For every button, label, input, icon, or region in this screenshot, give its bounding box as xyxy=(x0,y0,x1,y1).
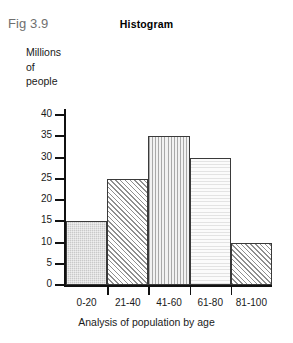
y-axis-tick-label: 25 xyxy=(41,172,52,184)
histogram-bar xyxy=(231,243,272,286)
y-axis-tick-mark xyxy=(55,178,64,180)
y-axis-tick-mark xyxy=(55,284,64,286)
y-axis-label-line-1: Millions xyxy=(26,45,61,60)
x-axis-label: Analysis of population by age xyxy=(0,316,293,328)
y-axis-label: Millions of people xyxy=(26,45,61,89)
y-axis-tick-mark xyxy=(55,135,64,137)
x-axis-line xyxy=(64,285,272,287)
x-axis-category-label: 0-20 xyxy=(66,297,107,309)
histogram-plot-area: 0510152025303540 0-2021-4041-6061-8081-1… xyxy=(66,115,272,285)
x-axis-category-label: 61-80 xyxy=(190,297,231,309)
y-axis-tick-mark xyxy=(55,199,64,201)
y-axis-tick-mark xyxy=(55,114,64,116)
x-axis-tick-mark xyxy=(190,287,192,295)
y-axis-tick-mark xyxy=(55,220,64,222)
y-axis-label-line-3: people xyxy=(26,74,61,89)
y-axis-label-line-2: of xyxy=(26,60,61,75)
x-axis-category-label: 81-100 xyxy=(231,297,272,309)
y-axis-tick-label: 30 xyxy=(41,151,52,163)
histogram-bar xyxy=(107,179,148,285)
x-axis-category-label: 21-40 xyxy=(107,297,148,309)
x-axis-tick-mark xyxy=(231,287,233,295)
y-axis-tick-label: 10 xyxy=(41,236,52,248)
histogram-bar xyxy=(66,221,107,285)
y-axis-tick-label: 40 xyxy=(41,108,52,120)
y-axis-tick-mark xyxy=(55,157,64,159)
y-axis-tick-label: 35 xyxy=(41,129,52,141)
histogram-bar xyxy=(190,158,231,286)
y-axis-tick-mark xyxy=(55,242,64,244)
x-axis-category-label: 41-60 xyxy=(148,297,189,309)
y-axis-tick-label: 15 xyxy=(41,214,52,226)
chart-title: Histogram xyxy=(0,18,293,30)
y-axis-tick-label: 0 xyxy=(46,278,52,290)
x-axis-tick-mark xyxy=(148,287,150,295)
histogram-bar xyxy=(148,136,189,285)
x-axis-tick-mark xyxy=(107,287,109,295)
y-axis-tick-label: 20 xyxy=(41,193,52,205)
y-axis-tick-label: 5 xyxy=(46,257,52,269)
y-axis-tick-mark xyxy=(55,263,64,265)
